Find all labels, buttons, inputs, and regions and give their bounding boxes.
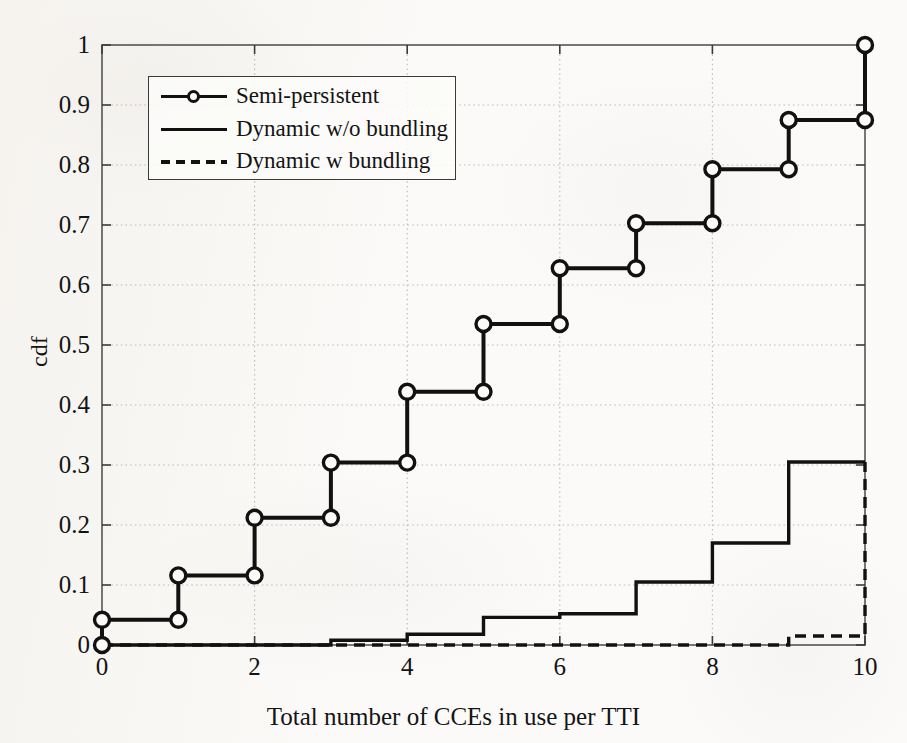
legend-label-semi-persistent: Semi-persistent bbox=[236, 83, 379, 109]
x-tick-label-4: 4 bbox=[377, 654, 437, 679]
x-tick-label-10: 10 bbox=[835, 654, 895, 679]
legend-sample-semi-persistent bbox=[161, 86, 227, 106]
y-tick-label-09: 0.9 bbox=[20, 92, 90, 117]
y-tick-label-08: 0.8 bbox=[20, 152, 90, 177]
legend-label-dynamic-wo-bundling: Dynamic w/o bundling bbox=[236, 116, 448, 142]
x-axis-title: Total number of CCEs in use per TTI bbox=[0, 703, 907, 731]
x-tick-label-8: 8 bbox=[682, 654, 742, 679]
legend-entry-dynamic-wo-bundling: Dynamic w/o bundling bbox=[161, 114, 448, 144]
x-tick-label-0: 0 bbox=[72, 654, 132, 679]
y-tick-label-1: 1 bbox=[20, 32, 90, 57]
legend-label-dynamic-w-bundling: Dynamic w bundling bbox=[236, 148, 430, 174]
series-line-1 bbox=[102, 462, 865, 645]
figure-page: 1 0.9 0.8 0.7 0.6 0.5 0.4 0.3 0.2 0.1 0 … bbox=[0, 0, 907, 743]
legend-sample-dynamic-wo-bundling bbox=[161, 119, 227, 139]
y-tick-label-01: 0.1 bbox=[20, 572, 90, 597]
y-tick-label-06: 0.6 bbox=[20, 272, 90, 297]
legend-entry-dynamic-w-bundling: Dynamic w bundling bbox=[161, 146, 430, 176]
legend: Semi-persistent Dynamic w/o bundling Dyn… bbox=[148, 76, 456, 180]
y-tick-label-07: 0.7 bbox=[20, 212, 90, 237]
circle-marker-icon bbox=[187, 90, 200, 103]
legend-dashed-line-icon bbox=[161, 160, 227, 164]
legend-line-icon bbox=[161, 128, 227, 131]
y-tick-label-02: 0.2 bbox=[20, 512, 90, 537]
legend-sample-dynamic-w-bundling bbox=[161, 151, 227, 171]
y-tick-label-04: 0.4 bbox=[20, 392, 90, 417]
legend-entry-semi-persistent: Semi-persistent bbox=[161, 81, 379, 111]
y-axis-title: cdf bbox=[26, 336, 53, 367]
y-tick-label-03: 0.3 bbox=[20, 452, 90, 477]
x-tick-label-6: 6 bbox=[530, 654, 590, 679]
x-tick-label-2: 2 bbox=[225, 654, 285, 679]
